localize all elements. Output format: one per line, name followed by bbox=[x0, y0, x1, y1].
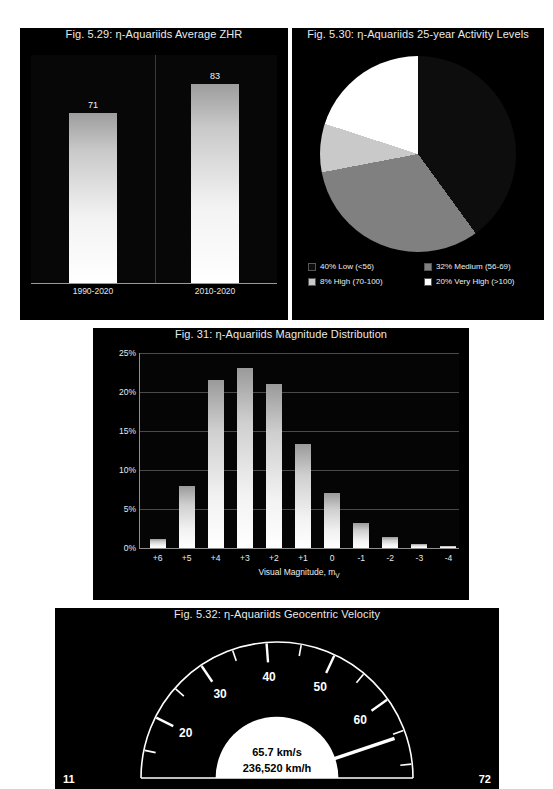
figure-title-magnitude-distribution: Fig. 31: η-Aquariids Magnitude Distribut… bbox=[93, 328, 469, 340]
x-axis-label-1: 2010-2020 bbox=[160, 286, 270, 296]
gauge-major-tick-30 bbox=[202, 666, 213, 682]
bar-value-label-0: 71 bbox=[58, 100, 128, 110]
x-axis-tick-label: -2 bbox=[386, 553, 394, 563]
gauge-tick-label-40: 40 bbox=[262, 670, 276, 684]
histogram-bar-0 bbox=[324, 493, 340, 548]
x-axis-tick-label: +3 bbox=[240, 553, 250, 563]
x-axis-tick-label: +2 bbox=[269, 553, 279, 563]
gauge-readout-kmh: 236,520 km/h bbox=[243, 760, 312, 776]
legend-swatch-icon bbox=[308, 278, 316, 286]
histogram-bar-+6 bbox=[150, 539, 166, 548]
y-axis-tick-label: 10% bbox=[119, 465, 136, 475]
gauge-tick-label-50: 50 bbox=[314, 680, 328, 694]
x-axis-tick-label: +4 bbox=[211, 553, 221, 563]
figure-panel-activity-levels: Fig. 5.30: η-Aquariids 25-year Activity … bbox=[292, 28, 544, 320]
histogram-bar--2 bbox=[382, 537, 398, 548]
x-axis-label-0: 1990-2020 bbox=[38, 286, 148, 296]
figure-panel-geocentric-velocity: Fig. 5.32: η-Aquariids Geocentric Veloci… bbox=[55, 608, 499, 789]
gauge-chart: 2030405060 11 72 65.7 km/s 236,520 km/h bbox=[55, 630, 499, 786]
histogram-bar-+5 bbox=[179, 486, 195, 548]
figure-title-activity-levels: Fig. 5.30: η-Aquariids 25-year Activity … bbox=[292, 28, 544, 40]
legend-label: 8% High (70-100) bbox=[320, 277, 383, 286]
legend-label: 40% Low (<56) bbox=[320, 262, 374, 271]
histogram-bar--3 bbox=[411, 544, 427, 548]
histogram-bar-+1 bbox=[295, 444, 311, 548]
gridline bbox=[140, 392, 459, 393]
histogram-bar--1 bbox=[353, 523, 369, 548]
gauge-min-label: 11 bbox=[63, 773, 75, 785]
figure-title-geocentric-velocity: Fig. 5.32: η-Aquariids Geocentric Veloci… bbox=[55, 608, 499, 620]
pie-chart-legend: 40% Low (<56)32% Medium (56-69)8% High (… bbox=[300, 262, 536, 286]
x-axis-tick-label: -1 bbox=[357, 553, 365, 563]
x-axis-tick-label: +6 bbox=[153, 553, 163, 563]
x-axis-tick-label: -4 bbox=[445, 553, 453, 563]
histogram-plot-area: 0%5%10%15%20%25%+6+5+4+3+2+10-1-2-3-4 bbox=[139, 353, 459, 549]
x-axis-tick-label: +5 bbox=[182, 553, 192, 563]
figure-panel-average-zhr: Fig. 5.29: η-Aquariids Average ZHR 7183 … bbox=[20, 28, 288, 320]
gauge-readout: 65.7 km/s 236,520 km/h bbox=[243, 744, 312, 776]
legend-item-very-high: 20% Very High (>100) bbox=[424, 277, 536, 286]
legend-item-medium: 32% Medium (56-69) bbox=[424, 262, 536, 271]
gauge-max-label: 72 bbox=[479, 773, 491, 785]
figure-panel-magnitude-distribution: Fig. 31: η-Aquariids Magnitude Distribut… bbox=[93, 328, 469, 600]
gauge-minor-tick-45 bbox=[299, 645, 301, 656]
y-axis-tick-label: 20% bbox=[119, 387, 136, 397]
histogram-bar-+3 bbox=[237, 368, 253, 548]
y-axis-tick-label: 5% bbox=[124, 504, 136, 514]
figure-title-average-zhr: Fig. 5.29: η-Aquariids Average ZHR bbox=[20, 28, 288, 40]
gauge-major-tick-50 bbox=[326, 656, 334, 673]
gauge-tick-label-60: 60 bbox=[353, 713, 367, 727]
x-axis-title: Visual Magnitude, mV bbox=[139, 567, 459, 579]
x-axis-title-text: Visual Magnitude, m bbox=[258, 567, 335, 577]
legend-item-low: 40% Low (<56) bbox=[308, 262, 420, 271]
gauge-minor-tick-35 bbox=[233, 650, 237, 660]
histogram-bar--4 bbox=[440, 546, 456, 548]
legend-label: 20% Very High (>100) bbox=[436, 277, 515, 286]
gauge-major-tick-20 bbox=[156, 718, 173, 726]
pie-chart bbox=[320, 56, 516, 252]
histogram-bar-+2 bbox=[266, 384, 282, 548]
gauge-minor-tick-65 bbox=[393, 730, 403, 734]
gauge-major-tick-40 bbox=[267, 643, 268, 662]
y-axis-tick-label: 15% bbox=[119, 426, 136, 436]
gauge-tick-label-20: 20 bbox=[179, 726, 193, 740]
bar-chart-plot-area: 7183 bbox=[31, 55, 277, 284]
histogram-bar-+4 bbox=[208, 380, 224, 548]
legend-swatch-icon bbox=[424, 278, 432, 286]
gauge-major-tick-60 bbox=[372, 700, 387, 711]
legend-swatch-icon bbox=[308, 263, 316, 271]
panel-divider bbox=[155, 55, 156, 283]
legend-item-high: 8% High (70-100) bbox=[308, 277, 420, 286]
gridline bbox=[140, 431, 459, 432]
gauge-minor-tick-25 bbox=[176, 689, 184, 696]
bar-0 bbox=[69, 113, 117, 283]
legend-swatch-icon bbox=[424, 263, 432, 271]
x-axis-tick-label: +1 bbox=[298, 553, 308, 563]
x-axis-tick-label: 0 bbox=[330, 553, 335, 563]
gauge-needle bbox=[333, 738, 395, 759]
gauge-readout-kms: 65.7 km/s bbox=[243, 744, 312, 760]
y-axis-tick-label: 0% bbox=[124, 543, 136, 553]
gauge-minor-tick-55 bbox=[356, 674, 363, 682]
gridline bbox=[140, 353, 459, 354]
gauge-minor-tick-70 bbox=[400, 764, 411, 765]
gauge-tick-label-30: 30 bbox=[213, 687, 227, 701]
bar-value-label-1: 83 bbox=[180, 71, 250, 81]
x-axis-tick-label: -3 bbox=[416, 553, 424, 563]
y-axis-tick-label: 25% bbox=[119, 348, 136, 358]
figure-sheet: Fig. 5.29: η-Aquariids Average ZHR 7183 … bbox=[0, 0, 553, 789]
gauge-minor-tick-15 bbox=[145, 750, 156, 752]
bar-1 bbox=[191, 84, 239, 283]
legend-label: 32% Medium (56-69) bbox=[436, 262, 511, 271]
x-axis-title-subscript: V bbox=[335, 572, 339, 579]
